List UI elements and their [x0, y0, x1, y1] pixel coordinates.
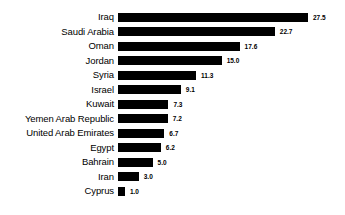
- bar-value-label: 3.0: [144, 173, 153, 180]
- bar-value-label: 17.6: [245, 43, 258, 50]
- bar-row: Israel9.1: [0, 83, 345, 98]
- category-label: Israel: [0, 85, 114, 95]
- bar: [118, 158, 153, 167]
- bar-value-label: 7.2: [173, 115, 182, 122]
- bar-value-label: 22.7: [280, 28, 293, 35]
- category-label: Egypt: [0, 143, 114, 153]
- category-label: Bahrain: [0, 157, 114, 167]
- bar-value-label: 7.3: [173, 101, 182, 108]
- bar-rows-container: Iraq27.5Saudi Arabia22.7Oman17.6Jordan15…: [0, 10, 345, 199]
- category-label: Iraq: [0, 12, 114, 22]
- bar-row: Yemen Arab Republic7.2: [0, 112, 345, 127]
- bar: [118, 13, 308, 22]
- bar-area: 1.0: [114, 184, 345, 199]
- bar-area: 11.3: [114, 68, 345, 83]
- bar-value-label: 6.2: [166, 144, 175, 151]
- bar-row: United Arab Emirates6.7: [0, 126, 345, 141]
- bar-row: Cyprus1.0: [0, 184, 345, 199]
- category-label: Oman: [0, 41, 114, 51]
- category-label: Saudi Arabia: [0, 27, 114, 37]
- category-label: Jordan: [0, 56, 114, 66]
- bar-area: 3.0: [114, 170, 345, 185]
- bar-value-label: 27.5: [313, 14, 326, 21]
- bar-area: 6.2: [114, 141, 345, 156]
- bar-row: Syria11.3: [0, 68, 345, 83]
- bar-area: 5.0: [114, 155, 345, 170]
- bar-area: 27.5: [114, 10, 345, 25]
- bar-row: Kuwait7.3: [0, 97, 345, 112]
- bar-row: Jordan15.0: [0, 54, 345, 69]
- bar-area: 7.3: [114, 97, 345, 112]
- bar-area: 15.0: [114, 54, 345, 69]
- bar-row: Bahrain5.0: [0, 155, 345, 170]
- bar-value-label: 11.3: [201, 72, 213, 79]
- bar: [118, 187, 125, 196]
- bar-area: 22.7: [114, 25, 345, 40]
- bar: [118, 56, 222, 65]
- bar-row: Iraq27.5: [0, 10, 345, 25]
- bar-value-label: 6.7: [169, 130, 178, 137]
- bar: [118, 85, 181, 94]
- category-label: Syria: [0, 70, 114, 80]
- bar-area: 9.1: [114, 83, 345, 98]
- bar-area: 7.2: [114, 112, 345, 127]
- bar-value-label: 1.0: [130, 188, 139, 195]
- category-label: Iran: [0, 172, 114, 182]
- category-label: Yemen Arab Republic: [0, 114, 114, 124]
- bar: [118, 172, 139, 181]
- bar-row: Egypt6.2: [0, 141, 345, 156]
- bar: [118, 27, 275, 36]
- bar: [118, 100, 168, 109]
- category-label: Kuwait: [0, 99, 114, 109]
- category-label: Cyprus: [0, 186, 114, 196]
- bar: [118, 143, 161, 152]
- bar-value-label: 9.1: [186, 86, 195, 93]
- bar-row: Iran3.0: [0, 170, 345, 185]
- bar-value-label: 5.0: [158, 159, 167, 166]
- bar: [118, 129, 164, 138]
- bar-area: 17.6: [114, 39, 345, 54]
- bar-chart: Iraq27.5Saudi Arabia22.7Oman17.6Jordan15…: [0, 0, 345, 215]
- bar-row: Oman17.6: [0, 39, 345, 54]
- bar: [118, 42, 240, 51]
- bar-row: Saudi Arabia22.7: [0, 25, 345, 40]
- bar-area: 6.7: [114, 126, 345, 141]
- category-label: United Arab Emirates: [0, 128, 114, 138]
- bar: [118, 71, 196, 80]
- bar-value-label: 15.0: [227, 57, 240, 64]
- bar: [118, 114, 168, 123]
